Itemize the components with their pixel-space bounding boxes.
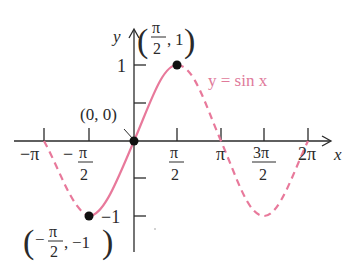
svg-text:(: ( xyxy=(23,223,34,261)
svg-text:−1: −1 xyxy=(72,233,90,252)
svg-text:π: π xyxy=(49,223,57,240)
svg-text:(: ( xyxy=(137,22,148,60)
x-tick-label-neg-half-pi: − π 2 xyxy=(63,144,93,183)
svg-text:2: 2 xyxy=(50,243,58,260)
svg-text:): ) xyxy=(102,223,113,261)
y-tick-label-1: 1 xyxy=(117,56,126,76)
svg-text:−: − xyxy=(63,144,73,164)
svg-text:,: , xyxy=(167,30,171,49)
svg-text:,: , xyxy=(64,233,68,252)
x-axis-label: x xyxy=(333,145,342,164)
svg-text:1: 1 xyxy=(175,30,184,49)
x-tick-label-three-half-pi: 3π 2 xyxy=(252,144,276,183)
origin-annotation: (0, 0) xyxy=(80,105,117,124)
x-tick-label-neg-pi: −π xyxy=(20,144,39,164)
svg-text:2: 2 xyxy=(171,166,179,183)
point-half-pi xyxy=(173,61,182,70)
min-point-annotation: ( − π 2 , −1 ) xyxy=(23,223,113,261)
svg-text:π: π xyxy=(170,144,178,161)
svg-text:3π: 3π xyxy=(253,144,269,161)
x-tick-label-pi: π xyxy=(216,144,225,164)
sine-chart: y x 1 −1 −π − π 2 π 2 π 3π 2 2π y = sin … xyxy=(0,0,361,271)
svg-text:2: 2 xyxy=(259,166,267,183)
svg-text:π: π xyxy=(152,19,160,36)
point-neg-half-pi xyxy=(85,212,94,221)
y-axis-label: y xyxy=(111,27,121,46)
speck xyxy=(154,228,156,230)
svg-text:π: π xyxy=(79,144,87,161)
function-label: y = sin x xyxy=(208,71,268,90)
svg-text:2: 2 xyxy=(80,166,88,183)
x-tick-label-half-pi: π 2 xyxy=(169,144,184,183)
x-tick-label-two-pi: 2π xyxy=(298,144,316,164)
svg-text:−: − xyxy=(35,230,45,249)
svg-text:2: 2 xyxy=(153,40,161,57)
svg-text:): ) xyxy=(184,22,195,60)
max-point-annotation: ( π 2 , 1 ) xyxy=(137,19,195,60)
point-origin xyxy=(130,137,139,146)
axes xyxy=(14,29,331,252)
